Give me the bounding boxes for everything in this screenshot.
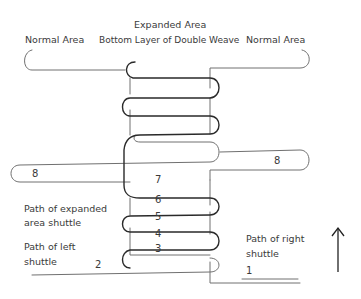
label-normal-area-right: Normal Area (246, 34, 305, 46)
expanded-shuttle-path (123, 62, 220, 268)
pick-number-5: 5 (155, 211, 161, 223)
pick-number-1: 1 (246, 265, 252, 277)
label-left-shuttle-2: shuttle (24, 256, 57, 268)
label-right-shuttle-1: Path of right (246, 233, 304, 245)
pick-number-6: 6 (155, 194, 161, 206)
label-expanded-shuttle-2: area shuttle (24, 217, 81, 229)
pick-number-8-left: 8 (32, 168, 38, 180)
label-right-shuttle-2: shuttle (246, 248, 279, 260)
label-bottom-layer: Bottom Layer of Double Weave (99, 34, 239, 46)
diagram-title: Expanded Area (134, 19, 206, 31)
label-expanded-shuttle-1: Path of expanded (24, 203, 107, 215)
label-left-shuttle-1: Path of left (24, 241, 75, 253)
arrow-up-icon (332, 228, 344, 272)
pick-number-8-right: 8 (274, 155, 280, 167)
pick-number-2: 2 (95, 259, 101, 271)
pick-number-7: 7 (155, 174, 161, 186)
pick-number-4: 4 (155, 228, 161, 240)
label-normal-area-left: Normal Area (25, 34, 84, 46)
pick-number-3: 3 (155, 243, 161, 255)
